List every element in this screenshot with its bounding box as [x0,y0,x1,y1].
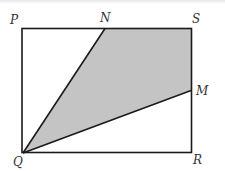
shaded-region-qnsm [23,28,191,153]
label-r: R [192,153,202,167]
label-n: N [99,11,111,25]
label-p: P [9,13,19,27]
label-s: S [192,12,200,26]
geometry-diagram: P N S M Q R [0,0,225,171]
label-q: Q [13,155,23,169]
label-m: M [195,84,209,98]
